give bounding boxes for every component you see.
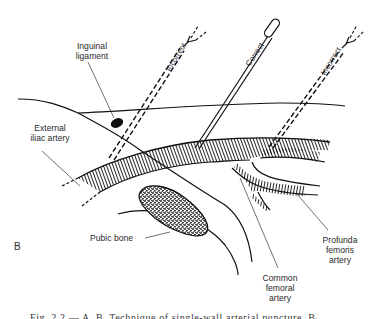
inguinal-ligament-oval — [109, 116, 125, 130]
needle-incorrect-right — [269, 25, 364, 148]
artery-profunda-branch — [232, 162, 320, 210]
pubic-bone — [139, 186, 207, 236]
label-inguinal-ligament: Inguinal ligament — [62, 41, 122, 61]
label-profunda-femoris-artery: Profunda femoris artery — [308, 235, 372, 265]
figure-caption: Fig. 2.2 — A, B, Technique of single-wal… — [30, 312, 370, 319]
needle-incorrect-left — [109, 26, 206, 160]
label-external-iliac-artery: External iliac artery — [18, 123, 82, 143]
label-pubic-bone: Pubic bone — [90, 233, 150, 243]
panel-label: B — [14, 241, 21, 252]
needle-correct — [195, 18, 281, 149]
label-common-femoral-artery: Common femoral artery — [250, 273, 310, 303]
femoral-puncture-diagram — [0, 0, 385, 319]
artery-main — [62, 138, 330, 206]
